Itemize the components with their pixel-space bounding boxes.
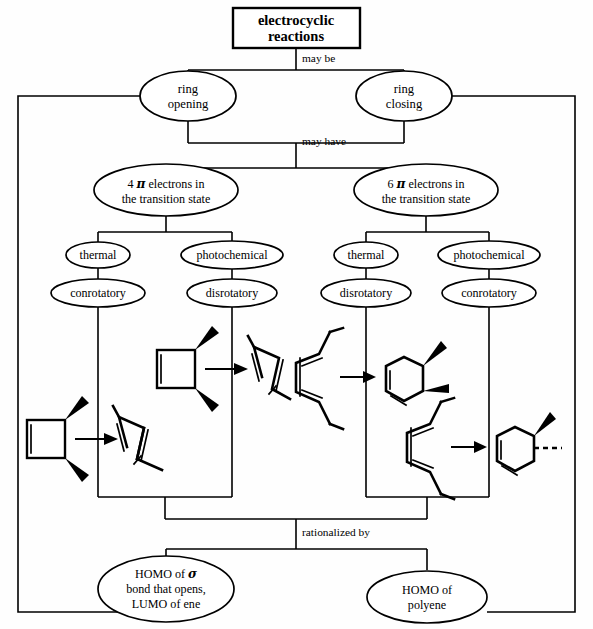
node-conrotatory-4pi[interactable]: conrotatory (51, 279, 145, 307)
node-disrotatory-6pi[interactable]: disrotatory (321, 279, 411, 307)
link-label-may-have: may have (302, 135, 346, 147)
title-line-2: reactions (268, 28, 324, 44)
homo-sigma-line-2: bond that opens, (126, 582, 206, 596)
node-homo-sigma[interactable]: HOMO of σ bond that opens, LUMO of ene (98, 556, 234, 622)
node-conrotatory-6pi[interactable]: conrotatory (442, 279, 536, 307)
node-ring-closing[interactable]: ring closing (356, 71, 452, 121)
ring-opening-line-2: opening (168, 97, 209, 111)
photochemical-4pi-label: photochemical (196, 248, 268, 262)
node-disrotatory-4pi[interactable]: disrotatory (187, 279, 277, 307)
homo-sigma-line-1-head: HOMO of (135, 567, 188, 581)
disrotatory-4pi-label: disrotatory (206, 286, 258, 300)
photochemical-6pi-label: photochemical (453, 248, 525, 262)
title-box: electrocyclic reactions (233, 8, 360, 48)
electrocyclic-reactions-concept-map: electrocyclic reactions may be may have … (0, 0, 593, 629)
node-thermal-6pi[interactable]: thermal (334, 242, 398, 268)
conrotatory-4pi-label: conrotatory (70, 286, 126, 300)
reaction-arrow-3 (340, 371, 376, 383)
node-photochemical-6pi[interactable]: photochemical (438, 241, 540, 269)
homo-polyene-line-1: HOMO of (402, 583, 453, 597)
node-thermal-4pi[interactable]: thermal (66, 242, 130, 268)
four-pi-line-2: the transition state (122, 192, 211, 206)
concept-map-canvas: electrocyclic reactions may be may have … (0, 0, 593, 629)
svg-text:HOMO of σ: HOMO of σ (135, 567, 197, 581)
node-six-pi-electrons[interactable]: 6 π electrons in the transition state (354, 164, 498, 216)
four-pi-line-1-tail: electrons in (148, 177, 204, 191)
ring-opening-line-1: ring (178, 82, 199, 96)
reaction-arrow-4 (451, 441, 487, 453)
homo-polyene-line-2: polyene (408, 598, 446, 612)
six-pi-line-2: the transition state (382, 192, 471, 206)
structure-cyclobutene-to-diene-disrotatory (157, 326, 290, 412)
node-homo-polyene[interactable]: HOMO of polyene (367, 571, 487, 623)
ring-closing-line-2: closing (386, 97, 423, 111)
node-photochemical-4pi[interactable]: photochemical (181, 241, 283, 269)
disrotatory-6pi-label: disrotatory (340, 286, 392, 300)
thermal-4pi-label: thermal (80, 248, 118, 262)
structure-cyclobutene-to-diene-conrotatory (27, 396, 162, 482)
node-ring-opening[interactable]: ring opening (140, 71, 236, 121)
link-label-may-be: may be (302, 52, 335, 64)
reaction-arrow-2 (205, 363, 248, 375)
svg-text:4 π electrons in: 4 π electrons in (127, 177, 204, 191)
svg-text:6 π electrons in: 6 π electrons in (387, 177, 464, 191)
structure-triene-to-cyclohexadiene-conrotatory (407, 398, 562, 499)
homo-sigma-symbol: σ (188, 567, 197, 581)
structure-triene-to-cyclohexadiene-disrotatory (296, 328, 449, 429)
connector-lines (18, 48, 575, 612)
title-line-1: electrocyclic (258, 12, 335, 28)
homo-sigma-line-3: LUMO of ene (132, 597, 201, 611)
ring-closing-line-1: ring (394, 82, 415, 96)
conrotatory-6pi-label: conrotatory (461, 286, 517, 300)
thermal-6pi-label: thermal (348, 248, 386, 262)
node-four-pi-electrons[interactable]: 4 π electrons in the transition state (94, 164, 238, 216)
link-label-rationalized-by: rationalized by (302, 526, 370, 538)
six-pi-line-1-tail: electrons in (408, 177, 464, 191)
reaction-arrow-1 (75, 433, 118, 445)
